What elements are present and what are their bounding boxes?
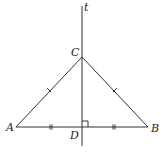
label-t: t [84, 1, 89, 14]
label-a: A [5, 121, 14, 134]
label-d: D [69, 129, 79, 142]
label-c: C [71, 46, 80, 59]
side-bc [82, 57, 148, 127]
side-ac [16, 57, 82, 127]
label-b: B [150, 122, 159, 135]
right-angle-mark [82, 121, 88, 127]
diagram-canvas: t C A B D [0, 0, 163, 154]
